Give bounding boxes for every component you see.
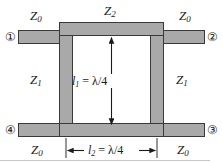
branch-left-z1 [59,35,73,137]
branch-bottom-z2 [59,123,164,137]
branch-top-z2 [59,22,164,36]
dimension-label-l1: l1 = λ/4 [72,75,107,87]
length-subscript: 2 [91,149,95,158]
impedance-subscript: 0 [186,14,191,24]
dimension-label-l2: l2 = λ/4 [88,144,123,156]
impedance-subscript: 2 [111,9,116,19]
branch-right-z1 [150,35,164,137]
feedline-bottom-right [163,123,205,137]
impedance-label-bottom-right: Z0 [177,143,189,156]
impedance-label-top-left: Z0 [30,9,42,22]
feedline-bottom-left [18,123,60,137]
length-value: = λ/4 [82,74,107,88]
port-number-2: ② [207,31,218,43]
impedance-label-top-right: Z0 [179,9,191,22]
impedance-subscript: 0 [38,148,43,158]
feedline-top-left [18,30,60,44]
impedance-label-left-arm: Z1 [30,73,42,86]
length-value: = λ/4 [98,143,123,157]
impedance-subscript: 1 [37,78,42,88]
impedance-subscript: 0 [37,14,42,24]
impedance-label-top-center: Z2 [104,4,116,17]
impedance-label-bottom-left: Z0 [31,143,43,156]
bottom-divider [0,160,210,161]
port-number-1: ① [5,31,16,43]
figure-canvas: Z0 Z2 Z0 Z1 Z1 Z0 Z0 ① ② ③ ④ l1 = λ/4 l2… [0,0,223,163]
impedance-subscript: 1 [183,78,188,88]
length-subscript: 1 [75,80,79,89]
impedance-label-right-arm: Z1 [176,73,188,86]
feedline-top-right [163,30,205,44]
port-number-3: ③ [207,124,218,136]
port-number-4: ④ [5,124,16,136]
impedance-subscript: 0 [184,148,189,158]
